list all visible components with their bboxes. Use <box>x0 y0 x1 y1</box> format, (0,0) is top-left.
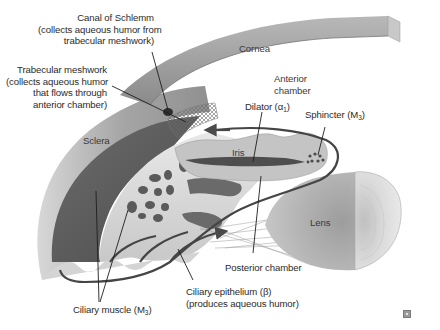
label-lens: Lens <box>310 217 330 229</box>
label-ciliary-epithelium: Ciliary epithelium (β) (produces aqueous… <box>186 286 299 309</box>
eye-anatomy-diagram: Canal of Schlemm (collects aqueous humor… <box>0 0 440 330</box>
label-iris: Iris <box>232 147 244 159</box>
label-cornea: Cornea <box>239 43 270 55</box>
diagram-illustration <box>0 0 440 330</box>
label-sclera: Sclera <box>83 135 110 147</box>
label-dilator: Dilator (α1) <box>245 101 290 116</box>
label-sphincter: Sphincter (M3) <box>305 109 365 124</box>
zoom-icon[interactable] <box>403 310 411 318</box>
lens-cut-face <box>355 172 401 270</box>
label-canal-of-schlemm: Canal of Schlemm (collects aqueous humor… <box>38 12 154 47</box>
label-trabecular-meshwork: Trabecular meshwork (collects aqueous hu… <box>6 64 107 110</box>
label-posterior-chamber: Posterior chamber <box>225 262 302 274</box>
label-ciliary-muscle: Ciliary muscle (M3) <box>73 304 151 319</box>
label-anterior-chamber: Anterior chamber <box>274 73 311 96</box>
